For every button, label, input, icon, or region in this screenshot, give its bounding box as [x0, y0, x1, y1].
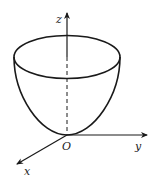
- y-axis-label: y: [134, 140, 142, 153]
- x-axis-label: x: [24, 165, 31, 178]
- z-axis-label: z: [55, 13, 62, 26]
- x-axis: [17, 135, 67, 164]
- paraboloid-diagram: z y x O: [0, 0, 154, 180]
- origin-label: O: [62, 140, 71, 153]
